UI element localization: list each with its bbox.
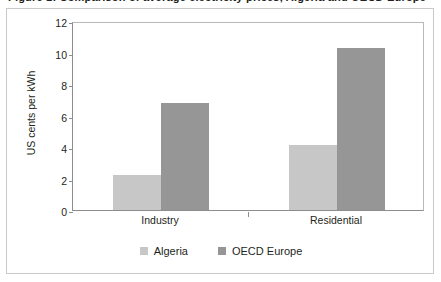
- legend-item-algeria: Algeria: [140, 245, 188, 257]
- x-axis-category-label: Residential: [248, 214, 424, 226]
- bar-chart: US cents per kWh 024681012 Algeria OECD …: [7, 9, 435, 275]
- y-axis-tick-label: 4: [11, 143, 67, 155]
- figure-frame: US cents per kWh 024681012 Algeria OECD …: [6, 8, 434, 274]
- figure-caption: Figure 1: Comparison of average electric…: [8, 0, 426, 3]
- legend-swatch-oecd-europe: [218, 247, 226, 255]
- y-axis-tick-label: 12: [11, 17, 67, 29]
- bar-industry-algeria: [113, 175, 161, 210]
- bar-residential-algeria: [289, 145, 337, 210]
- legend-label-algeria: Algeria: [154, 245, 188, 257]
- y-axis-tick-label: 6: [11, 112, 67, 124]
- y-axis-tick-label: 0: [11, 206, 67, 218]
- figure-caption-strip: Figure 1: Comparison of average electric…: [0, 0, 441, 7]
- y-axis-tick-mark: [69, 55, 73, 56]
- y-axis-tick-mark: [69, 212, 73, 213]
- bar-industry-oecd-europe: [161, 103, 209, 210]
- legend-item-oecd-europe: OECD Europe: [218, 245, 302, 257]
- y-axis-tick-mark: [69, 149, 73, 150]
- bar-residential-oecd-europe: [337, 48, 385, 210]
- y-axis-tick-label: 2: [11, 175, 67, 187]
- x-axis-category-label: Industry: [72, 214, 248, 226]
- y-axis-tick-mark: [69, 86, 73, 87]
- chart-legend: Algeria OECD Europe: [7, 245, 435, 257]
- y-axis-tick-label: 10: [11, 49, 67, 61]
- y-axis-tick-label: 8: [11, 80, 67, 92]
- y-axis-tick-mark: [69, 118, 73, 119]
- y-axis-tick-mark: [69, 181, 73, 182]
- plot-area: 024681012: [72, 22, 424, 211]
- y-axis-tick-mark: [69, 23, 73, 24]
- legend-swatch-algeria: [140, 247, 148, 255]
- legend-label-oecd-europe: OECD Europe: [232, 245, 302, 257]
